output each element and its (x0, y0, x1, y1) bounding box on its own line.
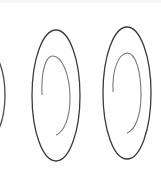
right-outer-ellipse (103, 27, 151, 159)
right-spiral (103, 27, 151, 159)
left-outer-ellipse (0, 45, 5, 145)
middle-outer-ellipse (32, 30, 80, 161)
spiral-drawing-canvas (0, 0, 161, 189)
left-spiral-partial (0, 45, 5, 145)
middle-inner-spiral (42, 56, 70, 135)
right-inner-spiral (113, 53, 141, 133)
middle-spiral (32, 30, 80, 161)
